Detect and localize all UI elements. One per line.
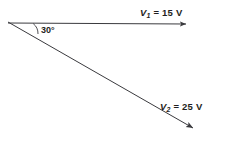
vector-v1-unit: V	[176, 7, 183, 18]
vector-diagram: V1 = 15 V V2 = 25 V 30°	[0, 0, 225, 145]
vector-v2-equals: =	[173, 101, 179, 112]
vector-v1-subscript: 1	[147, 12, 151, 19]
vector-v1-label: V1 = 15 V	[140, 7, 182, 18]
vector-canvas	[0, 0, 225, 145]
vector-v1-symbol: V	[140, 7, 147, 18]
vector-v2-symbol: V	[160, 101, 167, 112]
vector-v1-equals: =	[153, 7, 159, 18]
angle-label: 30°	[41, 25, 55, 35]
vector-v2-unit: V	[196, 101, 203, 112]
angle-arc	[33, 24, 38, 34]
vector-v1-magnitude: 15	[162, 7, 173, 18]
vector-v2-label: V2 = 25 V	[160, 101, 202, 112]
vector-v2-subscript: 2	[167, 106, 171, 113]
vector-v1-arrow	[8, 23, 186, 24]
vector-v2-magnitude: 25	[182, 101, 193, 112]
vector-v2-arrow	[8, 22, 193, 128]
